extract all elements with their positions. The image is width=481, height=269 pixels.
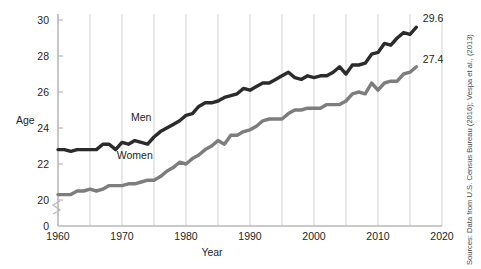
x-tick-2020: 2020 [430,230,454,242]
series-lines [58,27,416,194]
series-label-women: Women [117,149,153,161]
y-axis-title: Age [16,114,35,126]
x-tick-1990: 1990 [238,230,262,242]
y-tick-24: 24 [37,122,49,134]
chart-svg: 0202224262830 19601970198019902000201020… [0,0,481,269]
y-tick-labels: 0202224262830 [37,14,63,232]
end-value-label-29.6: 29.6 [423,12,444,24]
series-line-men [58,27,416,151]
x-tick-1970: 1970 [110,230,134,242]
series-line-women [58,67,416,195]
y-tick-28: 28 [37,50,49,62]
series-annotations: MenWomen29.627.4 [117,12,444,161]
x-tick-labels: 1960197019801990200020102020 [46,230,454,242]
series-label-men: Men [131,111,152,123]
y-tick-20: 20 [37,194,49,206]
x-tick-2010: 2010 [366,230,390,242]
x-tick-1960: 1960 [46,230,70,242]
x-tick-1980: 1980 [174,230,198,242]
y-tick-26: 26 [37,86,49,98]
y-axis-break-icon [53,201,60,214]
source-note: Sources: Data from U.S. Census Bureau (2… [465,34,474,265]
x-axis-title: Year [201,246,223,258]
y-tick-22: 22 [37,158,49,170]
end-value-label-27.4: 27.4 [423,53,444,65]
y-tick-30: 30 [37,14,49,26]
x-tick-2000: 2000 [302,230,326,242]
median-age-at-first-marriage-chart: 0202224262830 19601970198019902000201020… [0,0,481,269]
